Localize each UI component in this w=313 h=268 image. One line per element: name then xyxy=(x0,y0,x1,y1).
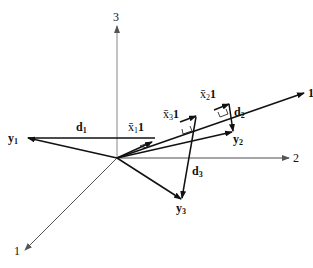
axis-1 xyxy=(25,158,117,250)
vector-d2-label: d2 xyxy=(234,105,245,120)
vector-one xyxy=(117,93,304,158)
vector-y1 xyxy=(28,138,117,158)
vector-d3-label: d3 xyxy=(192,164,203,179)
vector-projection-diagram: 3 2 1 1 y1 d1 x̄11 x̄31 x̄21 y2 xyxy=(0,0,313,268)
vector-one-label: 1 xyxy=(308,86,313,100)
projection-x3-label: x̄31 xyxy=(163,107,179,122)
vector-d1-label: d1 xyxy=(76,120,87,135)
projection-x2 xyxy=(214,104,229,117)
projection-x1 xyxy=(117,142,152,158)
axis-3-label: 3 xyxy=(113,10,119,24)
vector-y3 xyxy=(117,158,181,199)
projection-x2-label: x̄21 xyxy=(200,87,216,102)
axis-1-label: 1 xyxy=(14,244,20,258)
vector-y2 xyxy=(117,132,232,158)
vector-y3-label: y3 xyxy=(176,201,186,216)
axis-2-label: 2 xyxy=(293,151,299,165)
vector-y1-label: y1 xyxy=(8,131,18,146)
projection-x1-label: x̄11 xyxy=(128,120,144,135)
vector-y2-label: y2 xyxy=(233,132,243,147)
